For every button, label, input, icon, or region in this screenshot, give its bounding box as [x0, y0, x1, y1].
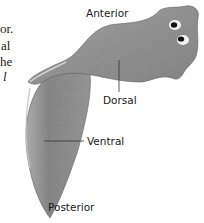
- label-posterior: Posterior: [48, 202, 94, 213]
- label-dorsal: Dorsal: [103, 95, 137, 106]
- eye-upper: [169, 20, 181, 30]
- eye-lower: [177, 35, 189, 45]
- planarian-illustration: [0, 0, 204, 223]
- label-ventral: Ventral: [87, 136, 124, 147]
- label-anterior: Anterior: [86, 8, 128, 19]
